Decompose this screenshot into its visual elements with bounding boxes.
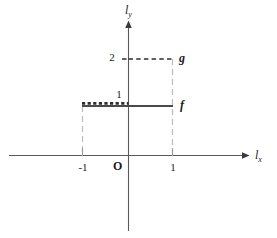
curve-label-g: g	[179, 51, 185, 66]
function-graph-figure: ly lx 2 1 -1 1 O g f	[0, 0, 277, 238]
x-tick-label-minus1: -1	[74, 161, 92, 173]
origin-label: O	[113, 159, 122, 174]
y-tick-label-1: 1	[112, 88, 126, 100]
x-tick-label-1: 1	[165, 161, 181, 173]
y-axis-label-subscript: y	[128, 10, 132, 19]
x-axis-label-subscript: x	[258, 155, 262, 164]
plot-canvas	[0, 0, 277, 238]
x-axis-label: lx	[255, 148, 262, 164]
y-axis-label: ly	[125, 3, 132, 19]
curve-label-f: f	[180, 98, 184, 113]
y-tick-label-2: 2	[105, 51, 119, 63]
